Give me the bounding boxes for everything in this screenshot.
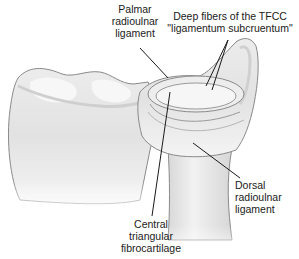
label-line: Central — [108, 218, 194, 230]
label-palmar-radioulnar-ligament: Palmar radioulnar ligament — [103, 3, 167, 39]
leader-palmar — [140, 48, 168, 78]
label-line: Deep fibers of the TFCC — [163, 10, 297, 22]
label-central-triangular-fibrocartilage: Central triangular fibrocartilage — [108, 218, 194, 254]
label-line: radioulnar — [103, 15, 167, 27]
label-line: Dorsal — [235, 179, 282, 191]
label-line: "ligamentum subcruentum" — [163, 22, 297, 34]
label-deep-fibers-tfcc: Deep fibers of the TFCC "ligamentum subc… — [163, 10, 297, 34]
label-line: radioulnar — [235, 191, 282, 203]
label-line: Palmar — [103, 3, 167, 15]
label-dorsal-radioulnar-ligament: Dorsal radioulnar ligament — [235, 179, 282, 215]
label-line: ligament — [103, 27, 167, 39]
label-line: fibrocartilage — [108, 242, 194, 254]
label-line: triangular — [108, 230, 194, 242]
label-line: ligament — [235, 203, 282, 215]
tfcc-diagram: Palmar radioulnar ligament Deep fibers o… — [0, 0, 299, 259]
